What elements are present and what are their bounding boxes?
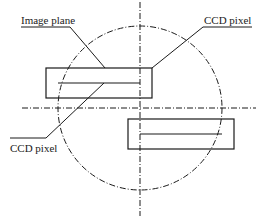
image-plane-leader xyxy=(21,27,105,68)
diagram-canvas: Image plane CCD pixel CCD pixel xyxy=(0,0,268,218)
ccd-pixel-bottom-leader xyxy=(10,83,104,138)
ccd-pixel-top-leader xyxy=(152,27,252,68)
ccd-pixel-top-label: CCD pixel xyxy=(204,14,251,26)
ccd-image-plane-diagram: Image plane CCD pixel CCD pixel xyxy=(0,0,268,218)
image-plane-label: Image plane xyxy=(21,14,75,26)
ccd-pixel-bottom-label: CCD pixel xyxy=(10,142,57,154)
